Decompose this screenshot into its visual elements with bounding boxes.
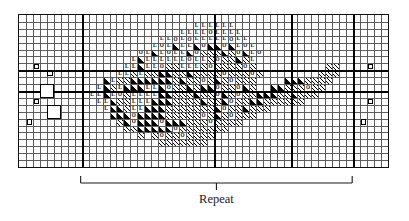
- open-square-marker: [368, 64, 374, 69]
- triangle-shape: [200, 84, 207, 91]
- grid-hline: [19, 98, 388, 99]
- grid-hline: [19, 22, 388, 23]
- grid-hline: [19, 160, 388, 161]
- open-square-marker: [34, 99, 40, 104]
- grid-hline: [19, 77, 388, 78]
- grid-hline: [19, 84, 388, 85]
- triangle-shape: [207, 84, 214, 91]
- open-square-marker: [34, 64, 40, 69]
- stitch-chart-grid[interactable]: LLLLLLLLLLOLLLLLLOLOLLLLLOLLLOLLLOOLOLOL…: [18, 14, 389, 168]
- open-square-marker: [368, 99, 374, 104]
- hatch-fill-icon: [193, 84, 200, 91]
- grid-hline: [19, 119, 388, 120]
- grid-hline: [19, 132, 388, 133]
- grid-heavy-divider-horizontal: [19, 91, 388, 93]
- grid-heavy-divider-horizontal: [19, 70, 388, 72]
- solid-triangle-icon: [186, 84, 193, 91]
- open-square-marker: [27, 119, 33, 124]
- open-square-marker: [47, 105, 61, 119]
- open-square-marker: [361, 119, 367, 124]
- grid-hline: [19, 153, 388, 154]
- grid-hline: [19, 36, 388, 37]
- solid-triangle-icon: [200, 84, 207, 91]
- open-square-marker: [47, 71, 53, 76]
- solid-triangle-icon: [207, 84, 214, 91]
- hatch-pattern: [193, 84, 200, 91]
- grid-hline: [19, 56, 388, 57]
- triangle-shape: [186, 84, 193, 91]
- grid-hline: [19, 105, 388, 106]
- chart-page: LLLLLLLLLLOLLLLLLOLOLLLLLOLLLOLLLOOLOLOL…: [0, 0, 409, 221]
- grid-hline: [19, 112, 388, 113]
- open-square-marker: [40, 84, 54, 98]
- grid-hline: [19, 146, 388, 147]
- grid-hline: [19, 126, 388, 127]
- grid-hline: [19, 63, 388, 64]
- grid-hline: [19, 139, 388, 140]
- grid-hline: [19, 29, 388, 30]
- repeat-label: Repeat: [12, 192, 409, 207]
- grid-hline: [19, 43, 388, 44]
- grid-hline: [19, 50, 388, 51]
